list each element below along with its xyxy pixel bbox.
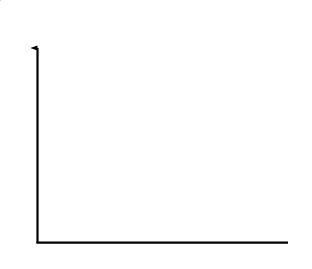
frequency-over-time-figure bbox=[0, 0, 312, 269]
chart-canvas bbox=[0, 0, 312, 269]
y-axis-label bbox=[0, 108, 22, 198]
